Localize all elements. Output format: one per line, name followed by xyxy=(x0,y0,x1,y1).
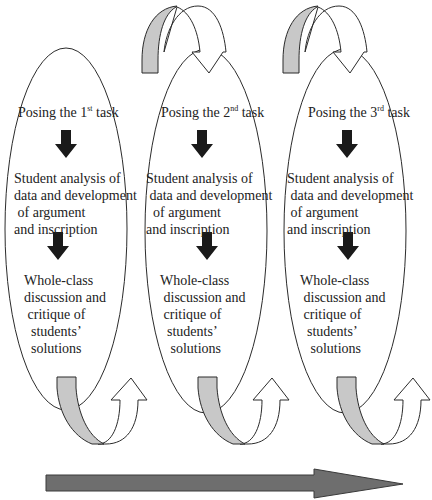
cycle-2-discussion-step: Whole-class discussion and critique of s… xyxy=(160,272,246,357)
curved-arrow-out-of-cycle-3-icon xyxy=(337,377,430,444)
curved-arrow-into-cycle-2-icon xyxy=(142,6,226,73)
cycle-3-analysis-step: Student analysis of data and development… xyxy=(287,170,413,238)
cycle-1-analysis-step: Student analysis of data and development… xyxy=(14,170,137,238)
cycle-3-discussion-step: Whole-class discussion and critique of s… xyxy=(300,272,386,357)
cycle-1-title-suffix: task xyxy=(93,105,119,120)
cycle-1-discussion-step: Whole-class discussion and critique of s… xyxy=(24,272,106,357)
cycle-2-title-prefix: Posing the 2 xyxy=(161,105,230,120)
cycle-diagram xyxy=(0,0,432,500)
cycle-3-title: Posing the 3rd task xyxy=(308,104,410,121)
curved-arrow-into-cycle-3-icon xyxy=(283,6,367,73)
cycle-3-title-sup: rd xyxy=(377,104,384,113)
cycle-3-title-prefix: Posing the 3 xyxy=(308,105,377,120)
progress-arrow-icon xyxy=(46,469,403,498)
curved-arrow-out-of-cycle-1-icon xyxy=(57,377,147,444)
cycle-1-title-prefix: Posing the 1 xyxy=(18,105,87,120)
cycle-2-analysis-step: Student analysis of data and development… xyxy=(146,170,272,238)
cycle-3-title-suffix: task xyxy=(384,105,410,120)
cycle-2-title: Posing the 2nd task xyxy=(161,104,264,121)
cycle-1-title: Posing the 1st task xyxy=(18,104,119,121)
cycle-2-title-suffix: task xyxy=(238,105,264,120)
curved-arrow-out-of-cycle-2-icon xyxy=(198,377,289,444)
